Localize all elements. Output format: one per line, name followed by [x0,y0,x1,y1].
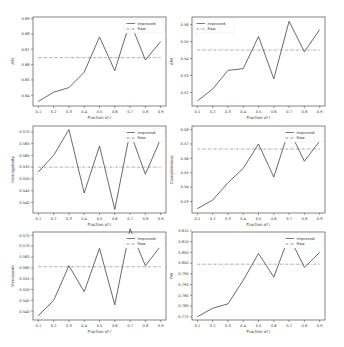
x-tick-label: 0.1 [35,324,41,328]
x-tick-label: 0.6 [112,110,118,114]
y-tick-label: 0.550 [19,177,30,181]
y-tick-label: 0.785 [178,294,188,298]
chart-ami: 0.10.20.30.40.50.60.70.80.9Fraction of r… [169,17,325,120]
legend-label: Raw [138,26,146,31]
y-tick-label: 0.56 [180,157,189,161]
x-tick-label: 0.4 [240,110,246,114]
y-tick-label: 0.565 [19,255,29,259]
y-tick-label: 0.805 [178,251,188,255]
legend: ImprovedRaw [283,234,323,248]
y-tick-label: 0.54 [180,185,189,189]
legend: ImprovedRaw [124,19,164,33]
x-tick-label: 0.4 [240,324,246,328]
x-axis-label: Fraction of r [246,329,270,334]
legend-label: Raw [138,241,146,246]
x-tick-label: 0.9 [158,324,164,328]
x-tick-label: 0.3 [66,217,72,221]
x-axis-label: Fraction of r [246,222,270,227]
x-tick-label: 0.5 [97,324,103,328]
x-tick-label: 0.5 [97,110,103,114]
y-tick-label: 0.795 [178,272,188,276]
x-tick-label: 0.1 [35,110,41,114]
x-tick-label: 0.1 [194,217,200,221]
y-tick-label: 0.780 [178,304,189,308]
y-tick-label: 0.540 [19,310,30,314]
y-axis-label: AMI [169,58,174,65]
chart-completeness: 0.10.20.30.40.50.60.70.80.9Fraction of r… [169,126,325,227]
y-axis-label: FMI [169,273,174,280]
x-tick-label: 0.5 [256,217,262,221]
x-tick-label: 0.3 [66,110,72,114]
y-tick-label: 0.545 [19,299,29,303]
y-tick-label: 0.540 [19,201,30,205]
y-tick-label: 0.775 [178,315,188,319]
legend-label: Improved [138,21,157,26]
x-tick-label: 0.7 [127,217,133,221]
x-axis-label: Fraction of r [87,222,111,227]
x-tick-label: 0.8 [143,110,149,114]
y-tick-label: 0.55 [180,171,188,175]
chart-ari: 0.10.20.30.40.50.60.70.80.9Fraction of r… [10,17,166,120]
x-tick-label: 0.7 [286,110,292,114]
x-tick-label: 0.5 [256,324,262,328]
y-tick-label: 0.555 [19,277,29,281]
x-tick-label: 0.8 [143,324,149,328]
figure-grid: 0.10.20.30.40.50.60.70.80.9Fraction of r… [0,0,344,347]
y-tick-label: 0.800 [178,261,189,265]
legend: ImprovedRaw [124,234,164,248]
y-tick-label: 0.67 [21,48,29,52]
y-tick-label: 0.57 [180,142,188,146]
y-tick-label: 0.810 [178,240,189,244]
legend-label: Improved [297,130,316,135]
x-tick-label: 0.9 [317,217,323,221]
x-tick-label: 0.8 [302,110,308,114]
x-tick-label: 0.6 [112,324,118,328]
x-tick-label: 0.6 [271,217,277,221]
x-tick-label: 0.2 [210,110,216,114]
x-tick-label: 0.3 [225,217,231,221]
x-axis-label: Fraction of r [87,329,111,334]
y-tick-label: 0.560 [19,266,30,270]
legend-label: Improved [297,236,316,241]
chart-fmi: 0.10.20.30.40.50.60.70.80.9Fraction of r… [169,229,325,333]
x-tick-label: 0.1 [35,217,41,221]
y-tick-label: 0.55 [180,40,188,44]
y-tick-label: 0.570 [19,130,30,134]
legend-label: Raw [297,135,305,140]
x-tick-label: 0.4 [81,217,87,221]
legend-label: Improved [138,236,157,241]
x-tick-label: 0.2 [51,217,57,221]
x-tick-label: 0.5 [256,110,262,114]
y-axis-label: ARI [10,58,15,65]
legend: ImprovedRaw [194,19,234,33]
y-tick-label: 0.575 [19,234,29,238]
legend: ImprovedRaw [283,128,323,142]
y-tick-label: 0.52 [180,91,188,95]
y-tick-label: 0.815 [178,229,188,233]
x-tick-label: 0.9 [317,110,323,114]
x-tick-label: 0.7 [286,324,292,328]
y-tick-label: 0.69 [21,17,30,21]
figure-canvas: 0.10.20.30.40.50.60.70.80.9Fraction of r… [0,0,344,347]
x-tick-label: 0.3 [225,324,231,328]
y-axis-label: V-measure [10,265,15,287]
legend: ImprovedRaw [124,128,164,142]
legend-label: Improved [208,21,227,26]
y-tick-label: 0.54 [180,57,189,61]
x-tick-label: 0.2 [210,217,216,221]
y-tick-label: 0.570 [19,244,30,248]
x-tick-label: 0.8 [302,324,308,328]
legend-label: Raw [208,26,216,31]
x-tick-label: 0.1 [194,110,200,114]
y-tick-label: 0.550 [19,288,30,292]
y-tick-label: 0.790 [178,283,189,287]
y-tick-label: 0.53 [180,200,188,204]
y-axis-label: Completeness [169,155,174,183]
legend-label: Raw [297,241,305,246]
y-tick-label: 0.545 [19,189,29,193]
x-tick-label: 0.8 [143,217,149,221]
x-tick-label: 0.4 [240,217,246,221]
x-tick-label: 0.9 [317,324,323,328]
x-tick-label: 0.9 [158,217,164,221]
y-tick-label: 0.68 [21,32,30,36]
